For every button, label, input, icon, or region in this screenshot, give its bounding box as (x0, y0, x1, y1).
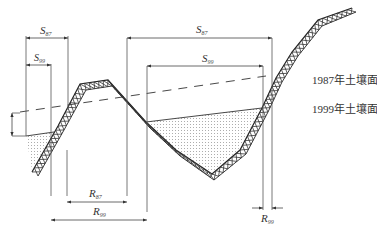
label-r99-bottom: R99 (92, 205, 106, 218)
hatch-stroke (94, 82, 95, 89)
surface-1987-line (20, 76, 266, 112)
label-s99-left: S99 (34, 52, 45, 64)
hatch-stroke (318, 20, 319, 30)
label-r87: R87 (88, 187, 103, 200)
hatch-stroke (327, 17, 328, 24)
legend-1999-surface: 1999年土壤面 (312, 102, 377, 115)
hatch-stroke (322, 18, 323, 26)
legend-1987-surface: 1987年土壤面 (312, 73, 377, 86)
hatch-stroke (341, 11, 342, 18)
hatch-stroke (89, 83, 90, 90)
hatch-stroke (346, 10, 347, 16)
depth-change-indicator (12, 113, 26, 136)
label-s87-right: S87 (196, 23, 209, 36)
hatch-stroke (236, 153, 237, 161)
hatch-stroke (351, 8, 352, 14)
hatch-stroke (332, 15, 333, 22)
soil-profile-diagram: S87 S99 S87 S99 R87 R99 R99 1987年土壤面 199… (0, 0, 377, 232)
label-r99-right: R99 (260, 212, 274, 225)
label-s87-left: S87 (40, 24, 53, 37)
hatch-stroke (337, 13, 338, 20)
label-s99-right: S99 (202, 52, 214, 65)
